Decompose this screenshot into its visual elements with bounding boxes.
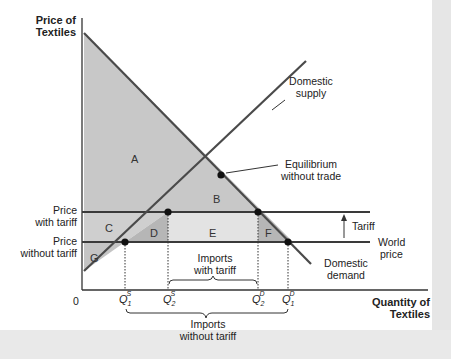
demand-label-line2: demand	[314, 269, 378, 281]
tariff-arrow-head-icon	[341, 214, 347, 221]
area-g-label: G	[90, 252, 99, 264]
q1d-label: Q1D	[282, 292, 300, 307]
world-demand-point	[284, 238, 291, 245]
price-with-tariff-line2: with tariff	[10, 216, 77, 228]
q2s-sup: S	[170, 290, 175, 297]
tariff-supply-point	[164, 208, 171, 215]
price-without-tariff-line2: without tariff	[10, 247, 77, 259]
q1d-sup: D	[289, 290, 294, 297]
domestic-demand-label: Domestic demand	[314, 257, 378, 281]
demand-label-line1: Domestic	[314, 257, 378, 269]
origin-label: 0	[73, 295, 79, 307]
world-price-label: World price	[378, 236, 405, 260]
imports-with-tariff-line2: with tariff	[185, 264, 245, 276]
price-without-tariff-label: Price without tariff	[10, 235, 77, 259]
x-axis-label-line1: Quantity of	[360, 296, 430, 308]
imports-with-tariff-label: Imports with tariff	[185, 252, 245, 276]
q1s-sub: 1	[128, 300, 132, 307]
price-without-tariff-line1: Price	[10, 235, 77, 247]
world-price-line1: World	[378, 236, 405, 248]
imports-with-tariff-brace	[169, 276, 257, 284]
supply-label-line1: Domestic	[276, 75, 346, 87]
supply-pointer	[272, 100, 285, 110]
equilibrium-label-line1: Equilibrium	[278, 158, 344, 170]
imports-with-tariff-line1: Imports	[185, 252, 245, 264]
supply-label-line2: supply	[276, 87, 346, 99]
equilibrium-label: Equilibrium without trade	[278, 158, 344, 182]
q2d-sup: D	[259, 290, 264, 297]
imports-without-tariff-line2: without tariff	[172, 330, 244, 342]
q2s-label: Q2S	[163, 292, 180, 307]
tariff-demand-point	[254, 208, 261, 215]
imports-without-tariff-label: Imports without tariff	[172, 318, 244, 342]
imports-without-tariff-line1: Imports	[172, 318, 244, 330]
x-axis-label: Quantity of Textiles	[360, 296, 430, 320]
world-price-line2: price	[378, 248, 405, 260]
y-axis-label-line1: Price of	[30, 14, 76, 26]
q2d-sub: 2	[261, 300, 265, 307]
area-e-label: E	[209, 227, 216, 239]
q1d-sub: 1	[291, 300, 295, 307]
x-axis-label-line2: Textiles	[360, 308, 430, 320]
area-d-label: D	[150, 227, 158, 239]
area-c-label: C	[105, 222, 113, 234]
y-axis-label: Price of Textiles	[30, 14, 76, 38]
q2s-sub: 2	[172, 300, 176, 307]
q1s-label: Q1S	[119, 292, 136, 307]
domestic-supply-label: Domestic supply	[276, 75, 346, 99]
q1s-sup: S	[126, 290, 131, 297]
equilibrium-point	[217, 171, 224, 178]
area-b-label: B	[213, 193, 220, 205]
imports-without-tariff-brace	[126, 309, 288, 318]
equilibrium-pointer	[226, 165, 278, 173]
price-with-tariff-line1: Price	[10, 204, 77, 216]
area-a-label: A	[131, 153, 138, 165]
equilibrium-label-line2: without trade	[278, 170, 344, 182]
q2d-label: Q2D	[252, 292, 270, 307]
world-supply-point	[121, 238, 128, 245]
tariff-label: Tariff	[352, 220, 375, 232]
y-axis-label-line2: Textiles	[30, 26, 76, 38]
area-f-label: F	[265, 227, 272, 239]
price-with-tariff-label: Price with tariff	[10, 204, 77, 228]
